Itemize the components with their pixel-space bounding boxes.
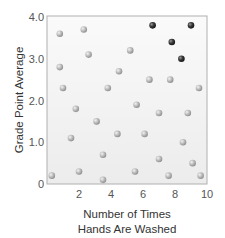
data-point xyxy=(105,85,112,92)
data-point xyxy=(100,177,107,184)
data-point xyxy=(57,30,64,37)
data-point xyxy=(93,118,100,125)
y-axis-ticks: 01.02.03.04.0 xyxy=(29,11,44,190)
data-point xyxy=(185,110,192,117)
data-point xyxy=(132,168,139,175)
data-point xyxy=(167,76,174,83)
data-point xyxy=(178,55,185,62)
y-tick-label: 0 xyxy=(38,178,44,190)
x-tick-label: 6 xyxy=(140,188,146,200)
x-axis-label-line2: Hands Are Washed xyxy=(78,223,177,235)
y-tick-label: 2.0 xyxy=(29,95,44,107)
data-point xyxy=(189,160,196,167)
y-axis-label: Grade Point Average xyxy=(13,47,25,154)
data-point xyxy=(114,131,121,138)
data-point xyxy=(127,47,134,54)
x-tick-label: 8 xyxy=(172,188,178,200)
data-point xyxy=(196,85,203,92)
data-point xyxy=(180,139,187,146)
data-point xyxy=(149,22,156,29)
data-point xyxy=(81,26,88,33)
data-point xyxy=(188,22,195,29)
x-axis-label-line1: Number of Times xyxy=(83,208,171,220)
data-point xyxy=(165,172,172,179)
data-point xyxy=(146,76,153,83)
data-point xyxy=(85,51,92,58)
x-tick-label: 4 xyxy=(108,188,114,200)
plot-area xyxy=(47,16,207,184)
data-point xyxy=(141,131,148,138)
data-point xyxy=(73,106,80,113)
data-point xyxy=(100,151,107,158)
data-point xyxy=(197,172,204,179)
data-point xyxy=(133,101,140,108)
x-tick-label: 2 xyxy=(76,188,82,200)
data-point xyxy=(76,168,83,175)
data-point xyxy=(156,110,163,117)
y-tick-label: 3.0 xyxy=(29,53,44,65)
data-point xyxy=(57,64,64,71)
y-tick-label: 1.0 xyxy=(29,136,44,148)
data-point xyxy=(68,135,75,142)
data-point xyxy=(156,156,163,163)
y-tick-label: 4.0 xyxy=(29,11,44,23)
data-point xyxy=(169,39,176,46)
data-point xyxy=(60,85,67,92)
x-axis-ticks: 246810 xyxy=(76,188,213,200)
data-point xyxy=(49,172,56,179)
data-point xyxy=(116,68,123,75)
x-tick-label: 10 xyxy=(201,188,213,200)
scatter-chart: 01.02.03.04.0 246810 Grade Point Average… xyxy=(0,0,225,238)
